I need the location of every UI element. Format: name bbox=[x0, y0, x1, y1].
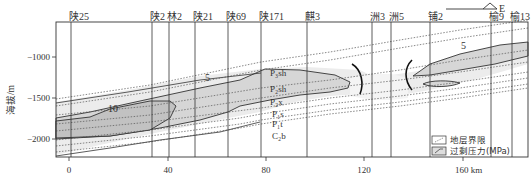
well-label: 陕2 bbox=[150, 10, 165, 22]
well-label: 洲3 bbox=[370, 11, 385, 22]
y-tick-label: −1000 bbox=[27, 52, 51, 62]
well-label: 陕69 bbox=[226, 10, 246, 22]
y-tick-label: −1500 bbox=[27, 93, 51, 103]
well-label: 陕171 bbox=[259, 10, 284, 22]
well-label: 榆9 bbox=[489, 10, 504, 22]
legend-label-stratum: 地层界限 bbox=[450, 135, 486, 145]
stratum-label: P₂x bbox=[270, 97, 283, 107]
stratum-label: C₂b bbox=[272, 131, 286, 141]
well-label: 榆13 bbox=[510, 10, 530, 22]
stratum-label: P₂sh bbox=[270, 84, 287, 94]
x-tick-label: 160 km bbox=[455, 165, 482, 175]
well-label: 铺2 bbox=[428, 10, 443, 22]
well-label: 林2 bbox=[167, 10, 182, 22]
direction-arrow-east bbox=[446, 3, 497, 9]
stratum-label: P₃sh bbox=[270, 68, 287, 78]
contour-label: 5 bbox=[461, 40, 466, 51]
y-axis: −1000−1500−2000 bbox=[27, 52, 56, 144]
x-tick-label: 0 bbox=[67, 165, 72, 175]
legend-label-overpressure: 过剩压力(MPa) bbox=[450, 146, 510, 156]
x-tick-label: 120 bbox=[357, 165, 371, 175]
well-label: 陕25 bbox=[69, 10, 89, 22]
x-tick-label: 80 bbox=[262, 165, 272, 175]
contour-label: 10 bbox=[108, 103, 118, 114]
x-tick-label: 40 bbox=[164, 165, 174, 175]
contour-small-east bbox=[423, 81, 460, 87]
x-axis: 04080120160 km bbox=[67, 157, 483, 175]
overpressure-icon bbox=[432, 147, 446, 155]
contour-label: 5 bbox=[205, 72, 210, 83]
y-axis-label: 海拔/m bbox=[5, 84, 16, 115]
well-label: 洲5 bbox=[389, 11, 404, 22]
cross-section-diagram: E 陕25陕2林2陕21陕69陕171麒3洲3洲5铺2榆9榆13 −1000−1… bbox=[0, 0, 532, 180]
y-tick-label: −2000 bbox=[27, 134, 51, 144]
stratum-label: P₁s bbox=[272, 109, 284, 119]
well-label: 陕21 bbox=[193, 10, 213, 22]
well-label: 麒3 bbox=[305, 10, 320, 22]
stratum-label: P₁t bbox=[272, 119, 283, 129]
legend: 地层界限 过剩压力(MPa) bbox=[432, 135, 510, 156]
